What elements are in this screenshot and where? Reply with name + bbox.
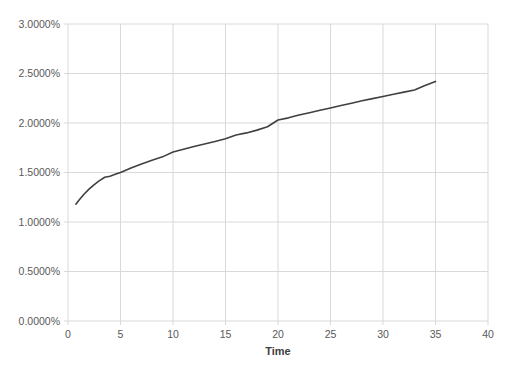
y-tick-label: 2.0000% [19, 117, 60, 129]
x-tick-label: 10 [167, 328, 179, 340]
y-tick-label: 1.0000% [19, 216, 60, 228]
x-tick-label: 25 [325, 328, 337, 340]
x-tick-label: 0 [65, 328, 71, 340]
x-tick-label: 30 [377, 328, 389, 340]
line-chart: 0.0000%0.5000%1.0000%1.5000%2.0000%2.500… [0, 0, 511, 370]
x-axis-title: Time [265, 345, 290, 357]
y-tick-label: 0.0000% [19, 315, 60, 327]
x-tick-label: 40 [482, 328, 494, 340]
x-tick-label: 35 [430, 328, 442, 340]
y-tick-label: 2.5000% [19, 67, 60, 79]
x-tick-label: 5 [118, 328, 124, 340]
x-tick-label: 20 [272, 328, 284, 340]
x-tick-label: 15 [220, 328, 232, 340]
chart-container: 0.0000%0.5000%1.0000%1.5000%2.0000%2.500… [0, 0, 511, 370]
y-tick-label: 0.5000% [19, 265, 60, 277]
y-tick-label: 3.0000% [19, 18, 60, 30]
y-tick-label: 1.5000% [19, 166, 60, 178]
